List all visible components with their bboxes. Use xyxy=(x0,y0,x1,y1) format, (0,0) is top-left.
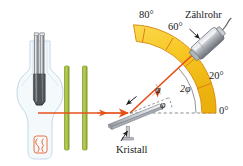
phi-label-lower: φ xyxy=(160,100,166,110)
phi-label-upper: φ xyxy=(155,85,161,95)
angle-label-60: 60° xyxy=(168,22,183,33)
angle-label-20: 20° xyxy=(209,71,224,82)
xray-diffraction-figure: 80° 60° 20° 0° Zählrohr Kristall φ φ 2φ xyxy=(0,0,243,166)
collimator-slit-icon xyxy=(65,66,88,150)
incident-direction-arrow xyxy=(127,97,137,105)
angle-label-0: 0° xyxy=(219,106,228,117)
figure-canvas xyxy=(0,0,243,166)
two-phi-label: 2φ xyxy=(180,84,191,94)
crystal-label: Kristall xyxy=(116,145,148,156)
crystal-plate-icon xyxy=(109,104,164,140)
detector-leader-arrow xyxy=(190,29,200,39)
angle-label-80: 80° xyxy=(139,10,154,21)
counter-tube-label: Zählrohr xyxy=(185,10,222,21)
xray-tube-icon xyxy=(17,33,63,159)
detector-tube-icon xyxy=(187,14,238,62)
